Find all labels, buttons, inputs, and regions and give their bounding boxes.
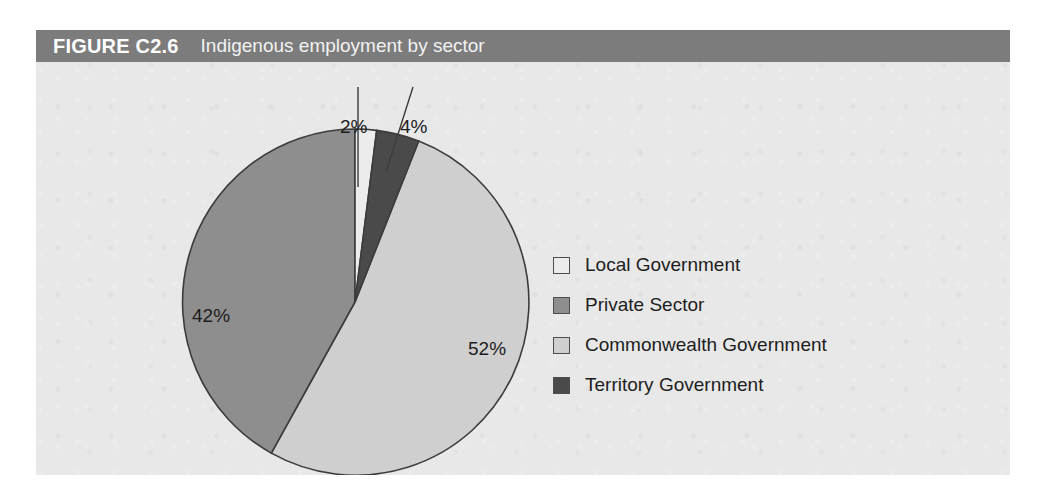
legend-swatch-icon-commonwealth-government: [553, 337, 570, 354]
legend-swatch-icon-territory-government: [553, 377, 570, 394]
legend-item-territory-government[interactable]: Territory Government: [553, 365, 953, 405]
pie-value-label-commonwealth-government: 52%: [468, 338, 506, 360]
legend-swatch-icon-private-sector: [553, 297, 570, 314]
legend-label-local-government: Local Government: [585, 254, 740, 276]
chart-legend: Local Government Private Sector Commonwe…: [553, 245, 953, 405]
figure-header-bar: FIGURE C2.6 Indigenous employment by sec…: [36, 30, 1010, 62]
legend-label-commonwealth-government: Commonwealth Government: [585, 334, 827, 356]
pie-chart-area: 2% 4% 42% 52% Local Government Private S…: [36, 62, 1010, 475]
figure-number-label: FIGURE C2.6: [53, 35, 179, 58]
legend-label-territory-government: Territory Government: [585, 374, 763, 396]
figure-panel: FIGURE C2.6 Indigenous employment by sec…: [36, 30, 1010, 475]
pie-value-label-territory-government: 4%: [400, 116, 427, 138]
pie-value-label-private-sector: 42%: [192, 305, 230, 327]
legend-item-commonwealth-government[interactable]: Commonwealth Government: [553, 325, 953, 365]
legend-label-private-sector: Private Sector: [585, 294, 704, 316]
legend-swatch-icon-local-government: [553, 257, 570, 274]
figure-caption-title: Indigenous employment by sector: [201, 35, 485, 57]
legend-item-private-sector[interactable]: Private Sector: [553, 285, 953, 325]
legend-item-local-government[interactable]: Local Government: [553, 245, 953, 285]
pie-value-label-local-government: 2%: [340, 116, 367, 138]
